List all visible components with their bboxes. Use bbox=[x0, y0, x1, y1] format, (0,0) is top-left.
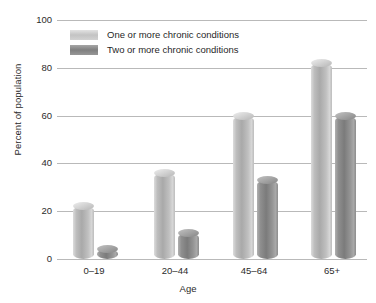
bar-cap bbox=[335, 112, 356, 120]
bar-cap bbox=[233, 112, 254, 120]
gridline bbox=[57, 259, 367, 260]
bar-series1-cat2 bbox=[154, 173, 175, 259]
bar-series1-cat3 bbox=[233, 116, 254, 259]
x-tick-label-45-64: 45–64 bbox=[214, 265, 294, 276]
y-axis-title: Percent of population bbox=[12, 35, 23, 185]
bar-series1-cat1 bbox=[73, 206, 94, 259]
bar-series2-cat4 bbox=[335, 116, 356, 259]
bar-series2-cat1 bbox=[97, 249, 118, 259]
bar-series2-cat2 bbox=[178, 233, 199, 259]
x-tick-label-65plus: 65+ bbox=[292, 265, 372, 276]
gridline bbox=[57, 20, 367, 21]
bar-cap bbox=[97, 245, 118, 253]
legend-label: One or more chronic conditions bbox=[107, 29, 239, 40]
y-tick-label: 20 bbox=[26, 205, 52, 216]
bar-series2-cat3 bbox=[257, 180, 278, 259]
x-axis-title: Age bbox=[0, 283, 376, 294]
bar-cap bbox=[73, 202, 94, 210]
y-tick-label: 80 bbox=[26, 62, 52, 73]
legend-swatch-icon bbox=[70, 30, 98, 40]
bar-cap bbox=[154, 169, 175, 177]
y-tick-label: 60 bbox=[26, 110, 52, 121]
legend-label: Two or more chronic conditions bbox=[107, 44, 238, 55]
bar-cap bbox=[178, 229, 199, 237]
bar-series1-cat4 bbox=[311, 63, 332, 259]
bar-cap bbox=[257, 176, 278, 184]
legend-item-one-or-more: One or more chronic conditions bbox=[70, 27, 239, 42]
y-tick-label: 0 bbox=[26, 253, 52, 264]
chart-container: Percent of population 0 20 40 60 80 100 … bbox=[0, 0, 376, 303]
legend-item-two-or-more: Two or more chronic conditions bbox=[70, 42, 239, 57]
x-tick-label-20-44: 20–44 bbox=[135, 265, 215, 276]
y-axis-tick-labels: 0 20 40 60 80 100 bbox=[26, 20, 52, 259]
y-tick-label: 40 bbox=[26, 157, 52, 168]
x-tick-label-0-19: 0–19 bbox=[54, 265, 134, 276]
bar-cap bbox=[311, 59, 332, 67]
y-tick-label: 100 bbox=[26, 14, 52, 25]
legend-swatch-icon bbox=[70, 45, 98, 55]
legend: One or more chronic conditions Two or mo… bbox=[70, 27, 239, 57]
